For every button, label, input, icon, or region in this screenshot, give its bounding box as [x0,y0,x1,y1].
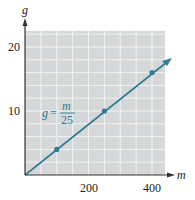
equation-equals: = [50,106,57,120]
x-tick-400: 400 [143,181,161,195]
x-tick-200: 200 [80,181,98,195]
data-point [149,70,154,75]
plot-area [25,31,165,175]
y-axis-arrow-icon [23,18,28,26]
y-axis-label: g [22,3,28,17]
equation-numerator: m [62,99,71,113]
chart: g m 20 10 200 400 g = m 25 [0,0,195,200]
equation-denominator: 25 [61,113,73,127]
x-axis-label: m [177,168,186,182]
data-point [102,108,107,113]
y-tick-10: 10 [8,104,20,118]
data-point [54,147,59,152]
y-tick-20: 20 [8,40,20,54]
equation-lhs: g [42,106,48,120]
x-axis-arrow-icon [167,173,175,178]
